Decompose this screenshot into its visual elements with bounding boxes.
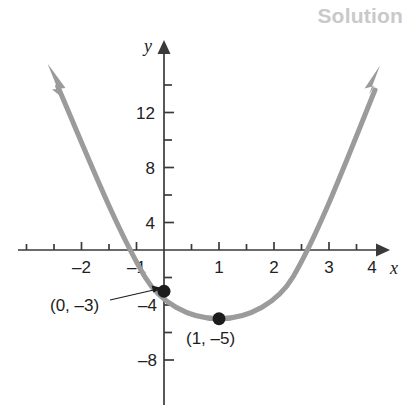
x-axis-label: x [389, 258, 398, 278]
x-tick-label-1: 1 [214, 258, 223, 277]
graph-figure: Solution [0, 0, 419, 418]
x-axis-arrow-icon [376, 244, 390, 257]
y-tick-label-neg4: –4 [138, 296, 157, 315]
y-axis-label: y [142, 36, 152, 56]
y-tick-label-neg8: –8 [138, 351, 157, 370]
point-a-label: (0, –3) [50, 296, 99, 315]
coordinate-plot: –2 –1 1 2 3 4 12 8 4 –4 –8 x y (0, –3) (… [0, 0, 419, 418]
x-tick-label-2: 2 [269, 258, 278, 277]
y-tick-label-12: 12 [136, 104, 155, 123]
y-axis-arrow-icon [158, 40, 171, 54]
point-b-label: (1, –5) [186, 329, 235, 348]
x-tick-label-3: 3 [324, 258, 333, 277]
parabola-curve [58, 86, 375, 318]
y-axis-ticks [164, 85, 174, 360]
x-axis-group [18, 244, 390, 257]
curve-left-arrow-icon [48, 64, 66, 97]
x-tick-label-4: 4 [367, 258, 376, 277]
y-tick-label-4: 4 [146, 214, 155, 233]
data-point-y-intercept[interactable] [158, 285, 171, 298]
x-tick-label-neg2: –2 [72, 258, 91, 277]
data-point-vertex[interactable] [213, 312, 226, 325]
y-tick-label-8: 8 [146, 159, 155, 178]
